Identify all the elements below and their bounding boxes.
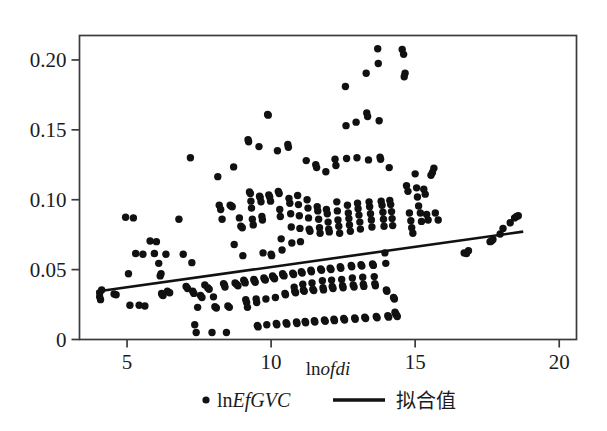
scatter-point	[362, 315, 369, 322]
scatter-point	[162, 251, 169, 258]
scatter-point	[190, 290, 197, 297]
scatter-point	[239, 224, 246, 231]
scatter-point	[356, 218, 363, 225]
x-tick-label: 10	[261, 350, 282, 374]
scatter-point	[130, 214, 137, 221]
chart-canvas: 00.050.100.150.20 5101520 lnofdi lnEfGVC…	[0, 0, 607, 431]
scatter-point	[263, 321, 270, 328]
scatter-point	[262, 276, 269, 283]
scatter-point	[354, 205, 361, 212]
scatter-point	[319, 277, 326, 284]
scatter-point	[341, 316, 348, 323]
scatter-point	[346, 221, 353, 228]
scatter-point	[366, 203, 373, 210]
scatter-point	[380, 216, 387, 223]
scatter-point	[275, 190, 282, 197]
scatter-point	[394, 313, 401, 320]
scatter-point	[388, 208, 395, 215]
scatter-point	[411, 170, 418, 177]
scatter-point	[268, 252, 275, 259]
scatter-point	[322, 168, 329, 175]
scatter-point	[316, 230, 323, 237]
scatter-point	[353, 154, 360, 161]
scatter-point	[287, 210, 294, 217]
scatter-point	[401, 70, 408, 77]
scatter-point	[348, 263, 355, 270]
scatter-point	[334, 216, 341, 223]
scatter-point	[326, 228, 333, 235]
scatter-point	[400, 51, 407, 58]
scatter-point	[365, 156, 372, 163]
scatter-point	[218, 216, 225, 223]
scatter-point	[331, 156, 338, 163]
scatter-point	[432, 209, 439, 216]
scatter-point	[288, 239, 295, 246]
scatter-point	[221, 283, 228, 290]
scatter-point	[413, 184, 420, 191]
scatter-point	[377, 156, 384, 163]
scatter-point	[230, 163, 237, 170]
scatter-point	[315, 216, 322, 223]
scatter-point	[424, 216, 431, 223]
scatter-point	[329, 285, 336, 292]
scatter-point	[132, 250, 139, 257]
scatter-point	[409, 230, 416, 237]
scatter-point	[306, 227, 313, 234]
scatter-point	[141, 302, 148, 309]
scatter-point	[265, 111, 272, 118]
y-tick-label: 0.15	[30, 118, 67, 142]
scatter-point	[301, 288, 308, 295]
scatter-point	[338, 276, 345, 283]
scatter-point	[331, 317, 338, 324]
scatter-point	[273, 321, 280, 328]
scatter-point	[324, 218, 331, 225]
scatter-point	[310, 287, 317, 294]
scatter-point	[126, 302, 133, 309]
scatter-point	[153, 238, 160, 245]
legend-item-fit-label: 拟合值	[396, 389, 456, 413]
scatter-point	[214, 173, 221, 180]
scatter-point	[254, 323, 261, 330]
scatter-point	[327, 266, 334, 273]
scatter-point	[358, 262, 365, 269]
scatter-point	[187, 154, 194, 161]
scatter-point	[342, 122, 349, 129]
scatter-point	[245, 138, 252, 145]
scatter-point	[387, 201, 394, 208]
scatter-point	[295, 201, 302, 208]
legend-item-lnefgvc-label: lnEfGVC	[217, 389, 291, 412]
scatter-point	[311, 318, 318, 325]
scatter-point	[406, 209, 413, 216]
scatter-point	[389, 222, 396, 229]
scatter-point	[192, 329, 199, 336]
scatter-point	[370, 262, 377, 269]
scatter-point	[267, 197, 274, 204]
scatter-point	[112, 291, 119, 298]
scatter-point	[350, 283, 357, 290]
scatter-point	[272, 294, 279, 301]
scatter-point	[180, 251, 187, 258]
scatter-point	[241, 279, 248, 286]
scatter-point	[194, 304, 201, 311]
scatter-point	[391, 295, 398, 302]
scatter-point	[335, 223, 342, 230]
scatter-point	[198, 294, 205, 301]
scatter-point	[318, 267, 325, 274]
scatter-point	[229, 203, 236, 210]
scatter-point	[373, 314, 380, 321]
scatter-point	[360, 283, 367, 290]
scatter-point	[303, 196, 310, 203]
scatter-plot-figure: 00.050.100.150.20 5101520 lnofdi lnEfGVC…	[0, 0, 607, 431]
scatter-point	[285, 144, 292, 151]
scatter-point	[385, 313, 392, 320]
scatter-point	[417, 209, 424, 216]
scatter-point	[352, 118, 359, 125]
x-tick-label: 5	[122, 350, 133, 374]
scatter-point	[515, 212, 522, 219]
scatter-point	[208, 329, 215, 336]
scatter-point	[213, 304, 220, 311]
scatter-point	[231, 241, 238, 248]
scatter-point	[347, 227, 354, 234]
scatter-point	[122, 214, 129, 221]
scatter-point	[223, 329, 230, 336]
